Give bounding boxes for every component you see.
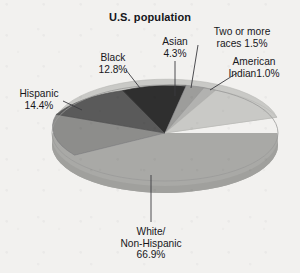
slice-label-two-or-more-races-name2-text: races (217, 38, 242, 49)
slice-label-two-or-more-races-percent: 1.5% (244, 38, 267, 49)
slice-label-asian-name: Asian (148, 36, 202, 48)
slice-label-american-indian-name2: Indian1.0% (212, 68, 296, 80)
slice-label-two-or-more-races: Two or more races 1.5% (196, 26, 288, 49)
slice-label-hispanic-name: Hispanic (8, 88, 70, 100)
slice-label-american-indian-percent: 1.0% (256, 68, 279, 79)
slice-label-hispanic-percent: 14.4% (8, 100, 70, 112)
slice-label-two-or-more-races-name2: races 1.5% (196, 38, 288, 50)
pie-chart-figure: U.S. population (0, 0, 300, 273)
slice-label-white-non-hispanic-name2: Non-Hispanic (108, 238, 194, 250)
slice-label-black: Black 12.8% (88, 52, 138, 75)
slice-label-white-non-hispanic-name: White/ (108, 226, 194, 238)
slice-label-white-non-hispanic: White/ Non-Hispanic 66.9% (108, 226, 194, 261)
slice-label-asian-percent: 4.3% (148, 48, 202, 60)
slice-label-hispanic: Hispanic 14.4% (8, 88, 70, 111)
slice-label-american-indian-name: American (212, 56, 296, 68)
slice-label-white-non-hispanic-percent: 66.9% (108, 249, 194, 261)
slice-label-american-indian-name2-text: Indian (229, 68, 257, 79)
slice-label-black-percent: 12.8% (88, 64, 138, 76)
slice-label-asian: Asian 4.3% (148, 36, 202, 59)
slice-label-american-indian: American Indian1.0% (212, 56, 296, 79)
slice-label-black-name: Black (88, 52, 138, 64)
slice-label-two-or-more-races-name: Two or more (196, 26, 288, 38)
